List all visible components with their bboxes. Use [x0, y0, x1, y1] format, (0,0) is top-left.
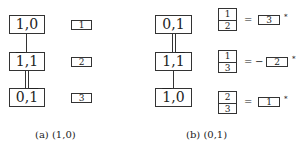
panel-a-node-2: 1,1: [9, 52, 45, 71]
panel-a-label-2: 2: [71, 57, 92, 67]
panel-a-caption: (a) (1,0): [35, 129, 76, 141]
panel-b-fraction-3: 2 3: [218, 91, 237, 114]
fraction-numerator: 1: [219, 51, 236, 63]
fraction-denominator: 2: [219, 21, 236, 31]
panel-b-equals-1: =: [244, 15, 252, 25]
panel-b-fraction-1: 1 2: [218, 8, 237, 31]
panel-b-asterisk-2: *: [292, 56, 296, 63]
panel-a-edge-1-2-single: [26, 34, 27, 52]
panel-a-node-3: 0,1: [9, 88, 45, 107]
panel-b-caption: (b) (0,1): [186, 129, 227, 141]
panel-b-node-3: 1,0: [155, 88, 192, 107]
panel-a-node-1: 1,0: [9, 15, 45, 34]
panel-b-node-2: 1,1: [155, 52, 192, 71]
node-text: 1,0: [16, 16, 38, 32]
panel-b-value-3: 1: [258, 97, 280, 107]
node-text-overline: 1: [16, 53, 25, 69]
panel-a-edge-2-3-double-left: [25, 71, 26, 88]
panel-b-equals-3: =: [244, 97, 252, 107]
panel-b-edge-1-2-double-right: [175, 34, 176, 52]
panel-b-node-1: 0,1: [155, 15, 192, 34]
node-text-overline: 1: [162, 89, 171, 105]
node-text: 0,1: [162, 16, 184, 32]
panel-a-label-3: 3: [71, 93, 92, 103]
panel-b-value-1: 3: [258, 15, 280, 25]
node-text-overline: 1: [29, 89, 38, 105]
node-text: 1,: [162, 53, 175, 69]
fraction-denominator: 3: [219, 104, 236, 114]
panel-b-edge-1-2-double-left: [172, 34, 173, 52]
panel-b-edge-2-3-single: [173, 71, 174, 88]
panel-b-fraction-2: 1 3: [218, 50, 237, 73]
node-text: ,1: [25, 53, 38, 69]
fraction-denominator: 3: [219, 63, 236, 73]
panel-b-asterisk-1: *: [284, 14, 288, 21]
node-text: ,0: [171, 89, 184, 105]
node-text: 0,: [16, 89, 29, 105]
panel-a-label-1: 1: [71, 20, 92, 30]
fraction-numerator: 2: [219, 92, 236, 104]
panel-b-asterisk-3: *: [284, 96, 288, 103]
node-text-overline: 1: [176, 53, 185, 69]
panel-b-value-2: 2: [266, 57, 288, 67]
panel-b-equals-2: =: [244, 57, 252, 67]
fraction-numerator: 1: [219, 9, 236, 21]
panel-a-edge-2-3-double-right: [28, 71, 29, 88]
panel-b-minus-sign-2: −: [255, 57, 263, 67]
